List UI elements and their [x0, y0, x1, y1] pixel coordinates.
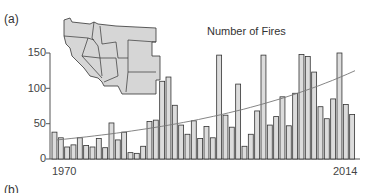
- bar: [343, 105, 348, 159]
- bar: [134, 153, 139, 159]
- bar: [331, 99, 336, 159]
- bar: [160, 81, 165, 159]
- bar: [324, 119, 329, 159]
- bar: [141, 146, 146, 159]
- bar: [293, 93, 298, 159]
- bar: [210, 138, 215, 159]
- bar: [191, 121, 196, 159]
- bar: [122, 132, 127, 159]
- bar: [185, 134, 190, 159]
- bar: [115, 140, 120, 159]
- bar: [305, 57, 310, 159]
- bar: [198, 139, 203, 159]
- bar: [350, 114, 355, 159]
- bar: [267, 125, 272, 159]
- bar: [280, 97, 285, 159]
- bar: [153, 120, 158, 159]
- bar: [223, 115, 228, 159]
- bar: [71, 145, 76, 159]
- bar: [84, 146, 89, 159]
- map-western-us-icon: [64, 18, 160, 94]
- bar: [236, 84, 241, 159]
- bar: [248, 134, 253, 159]
- bar: [337, 53, 342, 159]
- bar: [52, 132, 57, 159]
- bar: [166, 77, 171, 159]
- bar: [261, 55, 266, 159]
- bar: [318, 107, 323, 159]
- bar: [255, 111, 260, 159]
- bar: [103, 148, 108, 159]
- bar: [312, 72, 317, 159]
- bar: [299, 54, 304, 159]
- bar: [77, 138, 82, 159]
- bar: [128, 153, 133, 159]
- bar: [286, 126, 291, 159]
- bar: [242, 146, 247, 159]
- bar: [179, 125, 184, 159]
- bar: [147, 122, 152, 159]
- bar: [172, 105, 177, 159]
- bar: [65, 147, 70, 159]
- bar: [274, 117, 279, 159]
- bar: [58, 138, 63, 159]
- bar: [109, 123, 114, 159]
- bar: [217, 55, 222, 159]
- bar: [96, 139, 101, 159]
- bar: [229, 127, 234, 159]
- bar: [204, 126, 209, 159]
- bar: [90, 147, 95, 159]
- bar-chart: [0, 0, 382, 193]
